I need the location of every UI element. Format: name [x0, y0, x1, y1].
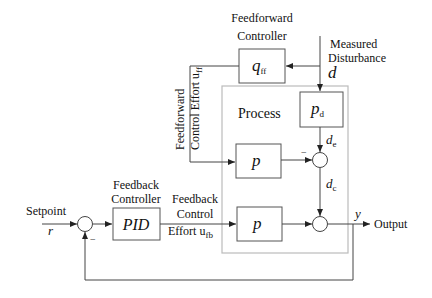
control-block-diagram: Process Feedforward Controller qff Measu…	[0, 0, 432, 298]
pid-symbol: PID	[122, 216, 150, 233]
feedback-controller-label-2: Controller	[111, 192, 160, 206]
disturbance-symbol-d: d	[328, 63, 337, 82]
setpoint-summing-junction	[78, 217, 93, 232]
upper-summing-junction	[313, 153, 328, 168]
process-upper-symbol: p	[251, 151, 261, 170]
feedforward-effort-label-2: Control Effort u	[188, 73, 202, 150]
setpoint-label: Setpoint	[26, 204, 67, 218]
lower-summing-junction	[313, 217, 328, 232]
pd-symbol: p	[310, 99, 320, 118]
pd-subscript: d	[320, 109, 325, 119]
feedforward-controller-label-1: Feedforward	[231, 11, 292, 25]
feedforward-controller-block: qff	[239, 49, 285, 83]
svg-text:dc: dc	[326, 176, 337, 193]
qff-subscript: ff	[261, 66, 267, 76]
svg-text:de: de	[326, 132, 337, 149]
feedback-effort-label-1: Feedback	[172, 192, 218, 206]
feedback-controller-label-1: Feedback	[113, 178, 159, 192]
feedforward-effort-label-1: Feedforward	[173, 89, 187, 150]
ufb-subscript: fb	[205, 230, 213, 240]
measured-disturbance-label-1: Measured	[330, 37, 377, 51]
svg-text:Effort ufb: Effort ufb	[168, 224, 213, 240]
process-lower-block: p	[237, 207, 282, 241]
feedforward-controller-label-2: Controller	[237, 29, 286, 43]
process-lower-symbol: p	[252, 214, 262, 233]
feedback-controller-block: PID	[113, 208, 160, 240]
upper-sum-minus-sign: −	[301, 147, 307, 158]
feedback-effort-label-3: Effort u	[168, 224, 205, 238]
feedback-effort-label-2: Control	[177, 207, 214, 221]
feedforward-effort-label: Feedforward Control Effort uff	[173, 67, 204, 150]
process-upper-block: p	[236, 144, 281, 178]
setpoint-symbol-r: r	[48, 223, 54, 238]
output-symbol-y: y	[353, 206, 361, 221]
svg-text:Control Effort uff: Control Effort uff	[188, 67, 204, 150]
disturbance-model-block: pd	[300, 92, 343, 127]
output-label: Output	[374, 217, 408, 231]
dc-subscript: c	[333, 183, 337, 193]
uff-subscript: ff	[194, 67, 204, 73]
measured-disturbance-label-2: Disturbance	[328, 51, 386, 65]
process-group-label: Process	[238, 106, 281, 121]
de-subscript: e	[333, 139, 337, 149]
setpoint-sum-minus-sign: −	[90, 234, 96, 245]
